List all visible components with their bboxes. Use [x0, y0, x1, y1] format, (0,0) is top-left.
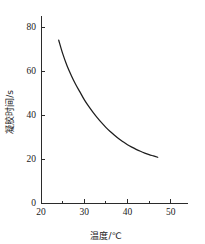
y-axis-tick-labels: 020406080: [27, 22, 37, 208]
y-tick-label: 20: [27, 154, 37, 164]
x-axis-tick-labels: 20304050: [36, 207, 175, 217]
chart-canvas: 020406080 20304050 温度/℃ 凝胶时间/s: [0, 0, 205, 244]
y-axis-group: 020406080: [27, 16, 46, 208]
x-tick-label: 40: [123, 207, 133, 217]
x-tick-label: 50: [166, 207, 176, 217]
x-tick-label: 30: [79, 207, 89, 217]
x-axis-title: 温度/℃: [90, 230, 121, 241]
x-axis-group: 20304050: [36, 199, 188, 217]
y-tick-label: 40: [27, 110, 37, 120]
y-tick-label: 80: [27, 22, 37, 32]
y-axis-title: 凝胶时间/s: [4, 90, 15, 134]
gel-time-curve: [59, 40, 158, 157]
y-axis-ticks: [41, 27, 45, 203]
chart-figure: 020406080 20304050 温度/℃ 凝胶时间/s: [0, 0, 205, 244]
x-tick-label: 20: [36, 207, 46, 217]
y-tick-label: 60: [27, 66, 37, 76]
